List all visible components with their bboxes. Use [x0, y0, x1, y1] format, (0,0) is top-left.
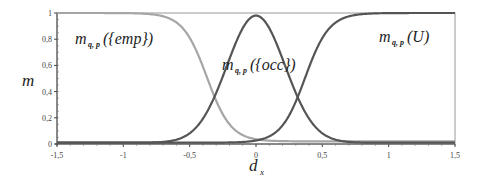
svg-text:0,4: 0,4: [42, 88, 52, 97]
svg-text:-0,5: -0,5: [183, 151, 196, 160]
svg-text:q, p: q, p: [88, 40, 100, 49]
label-u: m q, p (U): [379, 28, 429, 47]
label-occ: m q, p ({occ}): [222, 56, 296, 75]
label-emp: m q, p ({emp}): [75, 30, 153, 49]
svg-text:m: m: [379, 28, 391, 45]
svg-text:0: 0: [48, 140, 52, 149]
svg-text:m: m: [222, 56, 234, 73]
svg-text:({occ}): ({occ}): [250, 56, 296, 74]
svg-text:(U): (U): [407, 28, 429, 46]
chart: 00,20,40,60,81 -1,5-1-0,500,511,5 m d x …: [0, 0, 483, 185]
svg-text:0,8: 0,8: [42, 35, 52, 44]
x-axis-title: d x: [249, 156, 264, 177]
svg-text:q, p: q, p: [235, 66, 247, 75]
svg-text:1: 1: [48, 9, 52, 18]
svg-text:m: m: [75, 30, 87, 47]
svg-text:x: x: [259, 167, 264, 177]
svg-text:0,2: 0,2: [42, 114, 52, 123]
svg-text:-1,5: -1,5: [51, 151, 64, 160]
svg-text:1: 1: [387, 151, 391, 160]
y-axis-title: m: [22, 71, 34, 90]
svg-text:d: d: [249, 156, 258, 175]
svg-text:-1: -1: [120, 151, 127, 160]
svg-text:1,5: 1,5: [450, 151, 460, 160]
svg-text:q, p: q, p: [392, 38, 404, 47]
svg-text:0,6: 0,6: [42, 61, 52, 70]
svg-text:({emp}): ({emp}): [103, 30, 153, 48]
svg-text:0,5: 0,5: [317, 151, 327, 160]
y-axis: 00,20,40,60,81: [42, 9, 59, 149]
